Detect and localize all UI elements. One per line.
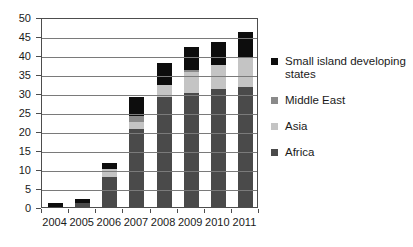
bar-segment-middle-east	[129, 116, 144, 122]
legend-item-label: Middle East	[285, 94, 411, 107]
stacked-bar-chart: 05101520253035404550 2004200520062007200…	[0, 0, 413, 247]
bar-segment-africa	[102, 177, 117, 207]
bar-segment-small-island-developing-states	[238, 32, 253, 57]
legend-item-label: Small island developing states	[285, 55, 411, 81]
y-tick-label: 15	[5, 146, 31, 156]
gridline	[42, 95, 257, 96]
bar-segment-small-island-developing-states	[157, 63, 172, 86]
y-tick-label: 25	[5, 108, 31, 118]
bar-2009	[184, 17, 199, 207]
gridline	[42, 152, 257, 153]
bar-segment-africa	[129, 129, 144, 207]
legend-item-asia[interactable]: Asia	[271, 120, 411, 133]
bar-segment-small-island-developing-states	[48, 203, 63, 207]
y-tick-label: 50	[5, 13, 31, 23]
gridline	[42, 57, 257, 58]
bar-2006	[102, 17, 117, 207]
bar-segment-small-island-developing-states	[75, 199, 90, 203]
y-tick-label: 35	[5, 70, 31, 80]
bar-2007	[129, 17, 144, 207]
bar-segment-small-island-developing-states	[184, 47, 199, 70]
y-tick-label: 20	[5, 127, 31, 137]
gridline	[42, 133, 257, 134]
gridline	[42, 171, 257, 172]
x-tick-mark	[41, 209, 42, 213]
x-tick-mark	[150, 209, 151, 213]
bar-2005	[75, 17, 90, 207]
bar-segment-small-island-developing-states	[211, 42, 226, 65]
legend-item-label: Asia	[285, 120, 411, 133]
bar-2010	[211, 17, 226, 207]
bar-segment-asia	[238, 57, 253, 87]
y-tick-label: 10	[5, 165, 31, 175]
bar-segment-small-island-developing-states	[102, 163, 117, 169]
legend-item-label: Africa	[285, 146, 411, 159]
chart-legend: Small island developing statesMiddle Eas…	[271, 55, 411, 172]
x-tick-mark	[231, 209, 232, 213]
gridline	[42, 190, 257, 191]
gridline	[42, 114, 257, 115]
y-tick-label: 40	[5, 51, 31, 61]
x-tick-mark	[177, 209, 178, 213]
legend-item-small-island-developing-states[interactable]: Small island developing states	[271, 55, 411, 81]
bars-layer	[42, 19, 257, 207]
legend-swatch-icon	[271, 58, 278, 65]
legend-item-middle-east[interactable]: Middle East	[271, 94, 411, 107]
x-tick-mark	[258, 209, 259, 213]
legend-swatch-icon	[271, 123, 278, 130]
bar-2004	[48, 17, 63, 207]
y-axis: 05101520253035404550	[0, 0, 41, 247]
y-tick-label: 45	[5, 32, 31, 42]
bar-segment-asia	[129, 122, 144, 130]
x-tick-mark	[68, 209, 69, 213]
x-tick-mark	[95, 209, 96, 213]
y-tick-label: 5	[5, 184, 31, 194]
bar-segment-small-island-developing-states	[129, 97, 144, 116]
x-tick-mark	[122, 209, 123, 213]
x-tick-mark	[204, 209, 205, 213]
bar-2008	[157, 17, 172, 207]
bar-2011	[238, 17, 253, 207]
legend-item-africa[interactable]: Africa	[271, 146, 411, 159]
x-tick-label-2011: 2011	[227, 216, 261, 228]
gridline	[42, 76, 257, 77]
y-tick-label: 30	[5, 89, 31, 99]
plot-area	[41, 18, 258, 208]
bar-segment-africa	[75, 203, 90, 207]
y-tick-label: 0	[5, 203, 31, 213]
legend-swatch-icon	[271, 149, 278, 156]
legend-swatch-icon	[271, 97, 278, 104]
gridline	[42, 38, 257, 39]
bar-segment-middle-east	[184, 70, 199, 72]
